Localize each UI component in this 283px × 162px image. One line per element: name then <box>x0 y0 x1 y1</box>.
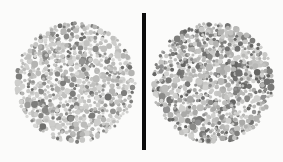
color-vision-test-figure <box>0 0 283 162</box>
ishihara-plate-left <box>14 21 137 144</box>
vertical-separator-bar <box>142 13 146 150</box>
ishihara-plate-right <box>151 21 275 145</box>
